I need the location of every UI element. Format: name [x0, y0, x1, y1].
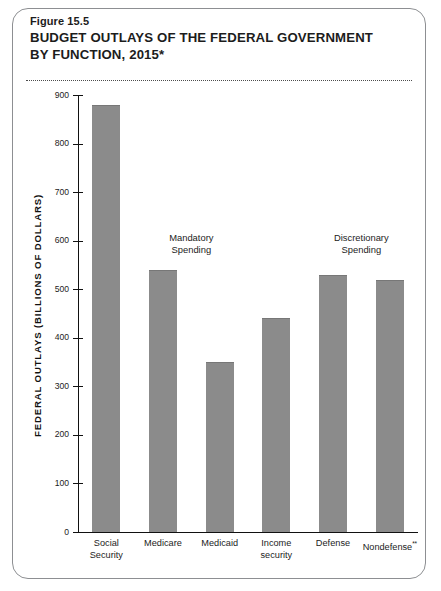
bar	[262, 318, 290, 532]
y-tick-label: 900	[29, 91, 69, 100]
y-tick-label: 500	[29, 285, 69, 294]
chart-plot-area: FEDERAL OUTLAYS (BILLIONS OF DOLLARS) 01…	[0, 0, 441, 591]
figure-root: Figure 15.5 BUDGET OUTLAYS OF THE FEDERA…	[0, 0, 441, 591]
y-axis-title: FEDERAL OUTLAYS (BILLIONS OF DOLLARS)	[32, 116, 43, 516]
x-axis-line	[78, 532, 418, 533]
bar	[376, 280, 404, 532]
footnote-marker: **	[412, 540, 416, 547]
bar	[319, 275, 347, 532]
chart-annotation: Mandatory Spending	[136, 232, 246, 255]
y-tick-label: 100	[29, 479, 69, 488]
bar	[206, 362, 234, 532]
y-tick-label: 200	[29, 430, 69, 439]
y-tick-label: 800	[29, 139, 69, 148]
y-tick-label: 400	[29, 333, 69, 342]
y-tick-label: 0	[29, 528, 69, 537]
bar	[92, 105, 120, 532]
x-axis-label: Nondefense**	[355, 538, 424, 554]
chart-annotation: Discretionary Spending	[306, 232, 416, 255]
y-axis-line	[78, 95, 79, 533]
y-tick-label: 600	[29, 236, 69, 245]
y-tick-label: 300	[29, 382, 69, 391]
y-tick-label: 700	[29, 188, 69, 197]
bar	[149, 270, 177, 532]
